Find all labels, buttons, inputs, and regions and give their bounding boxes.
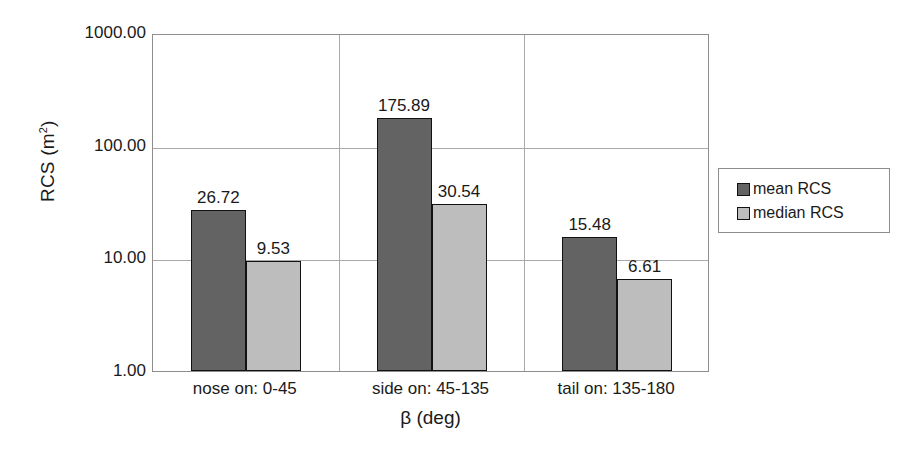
x-axis-tick-labels: nose on: 0-45side on: 45-135tail on: 135… [152, 379, 709, 405]
bar-median [432, 204, 487, 371]
y-axis-tick-label: 100.00 [56, 136, 146, 156]
bar-value-label: 6.61 [603, 257, 686, 277]
legend-item: mean RCS [737, 177, 889, 201]
x-axis-tick-label: tail on: 135-180 [523, 379, 709, 399]
y-axis-title-exponent: 2 [37, 127, 49, 133]
legend-label: median RCS [753, 204, 844, 222]
legend-swatch-median [737, 207, 750, 220]
bar-mean [377, 118, 432, 371]
bar-median [246, 261, 301, 371]
x-axis-tick-label: side on: 45-135 [338, 379, 524, 399]
category-divider [524, 35, 525, 371]
category-divider [339, 35, 340, 371]
bar-value-label: 30.54 [418, 182, 501, 202]
bar-value-label: 15.48 [548, 215, 631, 235]
y-axis-tick-label: 1.00 [56, 361, 146, 381]
bar-value-label: 9.53 [232, 239, 315, 259]
chart-legend: mean RCSmedian RCS [718, 168, 890, 233]
rcs-bar-chart: RCS (m2) 1000.00100.0010.001.00 26.729.5… [0, 0, 910, 458]
y-axis-tick-labels: 1000.00100.0010.001.00 [56, 0, 146, 458]
plot-area: 26.729.53175.8930.5415.486.61 [152, 34, 709, 372]
x-axis-tick-label: nose on: 0-45 [152, 379, 338, 399]
legend-label: mean RCS [753, 180, 831, 198]
bar-value-label: 26.72 [177, 188, 260, 208]
legend-item: median RCS [737, 201, 889, 225]
y-axis-tick-label: 1000.00 [56, 23, 146, 43]
bar-mean [191, 210, 246, 371]
y-axis-title-close: ) [37, 120, 58, 127]
y-axis-title-base: RCS (m [37, 133, 58, 202]
legend-swatch-mean [737, 183, 750, 196]
y-axis-tick-label: 10.00 [56, 248, 146, 268]
x-axis-title: β (deg) [152, 407, 709, 429]
bar-median [617, 279, 672, 371]
bar-value-label: 175.89 [363, 96, 446, 116]
